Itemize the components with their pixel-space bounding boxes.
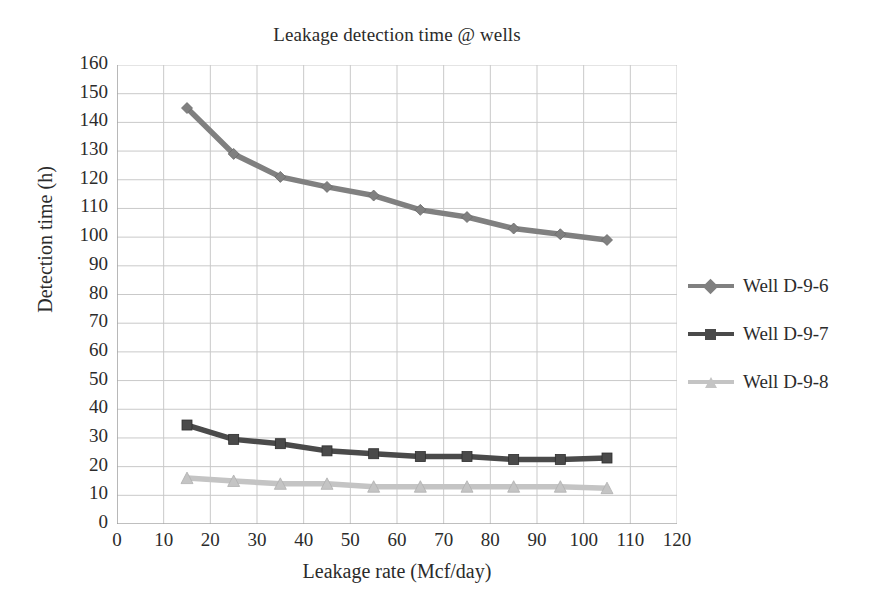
legend-label: Well D-9-8 [743, 371, 829, 393]
y-tick-label: 10 [48, 482, 108, 504]
legend-label: Well D-9-7 [743, 323, 829, 345]
legend-label: Well D-9-6 [743, 275, 829, 297]
y-tick-label: 90 [48, 253, 108, 275]
x-tick-label: 120 [647, 529, 707, 551]
marker-square [509, 454, 519, 464]
y-tick-label: 160 [48, 52, 108, 74]
y-tick-label: 80 [48, 282, 108, 304]
marker-square [369, 449, 379, 459]
y-tick-label: 20 [48, 454, 108, 476]
marker-square [462, 452, 472, 462]
legend-marker-triangle-icon [705, 377, 717, 388]
chart-container: Leakage detection time @ wells Detection… [0, 0, 891, 608]
marker-diamond [555, 229, 566, 240]
x-axis-title: Leakage rate (Mcf/day) [117, 560, 677, 583]
y-tick-label: 110 [48, 195, 108, 217]
marker-square [415, 452, 425, 462]
marker-square [229, 434, 239, 444]
legend-item-well-d-9-7[interactable]: Well D-9-7 [688, 310, 888, 358]
marker-diamond [322, 181, 333, 192]
y-tick-label: 100 [48, 224, 108, 246]
y-tick-label: 120 [48, 167, 108, 189]
legend-marker-square-icon [705, 329, 716, 340]
y-tick-label: 140 [48, 109, 108, 131]
y-tick-label: 70 [48, 310, 108, 332]
legend-marker-diamond-icon [703, 279, 719, 295]
legend-item-well-d-9-8[interactable]: Well D-9-8 [688, 358, 888, 406]
marker-square [602, 453, 612, 463]
legend-swatch [688, 374, 734, 390]
plot-area [117, 65, 677, 524]
legend-swatch [688, 326, 734, 342]
legend-swatch [688, 278, 734, 294]
marker-diamond [462, 212, 473, 223]
y-tick-label: 40 [48, 396, 108, 418]
plot-svg [117, 65, 677, 524]
marker-square [322, 446, 332, 456]
marker-square [555, 454, 565, 464]
y-tick-label: 50 [48, 368, 108, 390]
chart-title: Leakage detection time @ wells [117, 24, 677, 46]
y-tick-label: 130 [48, 138, 108, 160]
y-tick-label: 150 [48, 81, 108, 103]
legend-item-well-d-9-6[interactable]: Well D-9-6 [688, 262, 888, 310]
marker-diamond [508, 223, 519, 234]
y-tick-label: 60 [48, 339, 108, 361]
chart-legend: Well D-9-6Well D-9-7Well D-9-8 [688, 262, 888, 406]
y-tick-label: 30 [48, 425, 108, 447]
marker-square [275, 439, 285, 449]
marker-diamond [602, 234, 613, 245]
marker-square [182, 420, 192, 430]
